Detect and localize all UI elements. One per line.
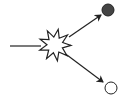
filled-particle-icon xyxy=(102,4,114,16)
collision-diagram xyxy=(0,0,125,99)
arrow-to-open-particle xyxy=(67,55,103,82)
open-particle-icon xyxy=(105,82,117,94)
arrow-to-filled-particle xyxy=(69,15,101,37)
collision-burst-icon xyxy=(40,29,71,61)
